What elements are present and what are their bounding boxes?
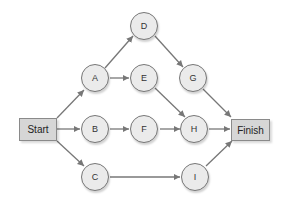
edge-a-d: [105, 36, 133, 68]
edge-i-finish: [206, 141, 232, 166]
node-b: B: [81, 115, 109, 143]
edge-e-h: [155, 88, 185, 117]
node-c: C: [81, 163, 109, 191]
edge-d-g: [155, 36, 183, 67]
node-a: A: [81, 64, 109, 92]
edge-start-a: [57, 90, 84, 118]
network-diagram: Start Finish A D E G B F H C I: [0, 0, 289, 210]
edge-start-c: [57, 141, 84, 166]
node-i: I: [181, 163, 209, 191]
start-box: Start: [19, 118, 57, 141]
finish-box: Finish: [231, 119, 270, 141]
node-f: F: [130, 115, 158, 143]
node-d: D: [130, 12, 158, 40]
edge-g-finish: [203, 89, 231, 117]
node-e: E: [130, 64, 158, 92]
node-h: H: [180, 115, 208, 143]
node-g: G: [179, 64, 207, 92]
